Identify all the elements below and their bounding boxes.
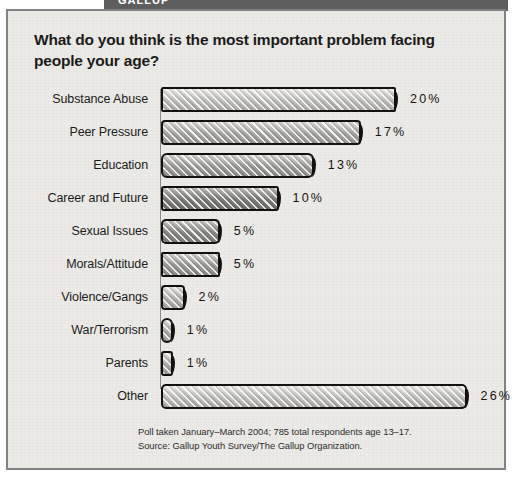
bar [161,384,467,409]
bar-fill [161,318,173,343]
banner-label: GALLUP [118,0,169,6]
bar [161,120,361,145]
chart-page: GALLUP What do you think is the most imp… [0,0,527,488]
bar [161,318,173,343]
value-label: 17% [375,116,407,149]
bar [161,252,220,277]
value-label: 10% [293,182,325,215]
chart-title: What do you think is the most important … [34,29,464,71]
bar-fill [161,384,467,409]
chart-row: Parents1% [8,347,504,380]
value-label: 5% [234,248,256,281]
value-label: 13% [328,149,360,182]
bar [161,153,314,178]
bar-fill [161,153,314,178]
chart-row: Other26% [8,380,504,413]
value-label: 1% [187,347,209,380]
bar-fill [161,351,173,376]
category-label: Substance Abuse [8,83,148,116]
category-label: Other [8,380,148,413]
chart-footnote: Poll taken January–March 2004; 785 total… [138,425,412,452]
value-label: 2% [199,281,221,314]
bar [161,219,220,244]
chart-panel: What do you think is the most important … [6,9,506,470]
chart-row: Peer Pressure17% [8,116,504,149]
footnote-poll-line: Poll taken January–March 2004; 785 total… [138,425,412,439]
value-label: 26% [481,380,513,413]
chart-row: War/Terrorism1% [8,314,504,347]
value-label: 5% [234,215,256,248]
value-label: 1% [187,314,209,347]
chart-row: Career and Future10% [8,182,504,215]
chart-row: Morals/Attitude5% [8,248,504,281]
bar-chart: Substance Abuse20%Peer Pressure17%Educat… [8,83,504,403]
bar-fill [161,120,361,145]
value-label: 20% [410,83,442,116]
bar [161,186,279,211]
bar-fill [161,186,279,211]
chart-row: Violence/Gangs2% [8,281,504,314]
category-label: Peer Pressure [8,116,148,149]
category-label: Parents [8,347,148,380]
bar-fill [161,252,220,277]
chart-row: Substance Abuse20% [8,83,504,116]
category-label: War/Terrorism [8,314,148,347]
bar-fill [161,87,396,112]
chart-row: Sexual Issues5% [8,215,504,248]
category-label: Violence/Gangs [8,281,148,314]
bar-fill [161,285,185,310]
bar-fill [161,219,220,244]
category-label: Morals/Attitude [8,248,148,281]
chart-row: Education13% [8,149,504,182]
category-label: Sexual Issues [8,215,148,248]
bar [161,87,396,112]
bar [161,351,173,376]
category-label: Career and Future [8,182,148,215]
bar [161,285,185,310]
footnote-source-line: Source: Gallup Youth Survey/The Gallup O… [138,439,412,453]
category-label: Education [8,149,148,182]
